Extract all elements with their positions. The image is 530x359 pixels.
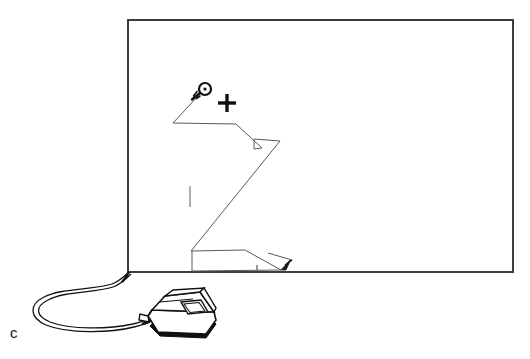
figure-drawing-canvas (0, 0, 530, 359)
puck-front-face (148, 310, 216, 334)
digitizer-puck (139, 288, 216, 338)
cursor-center-dot (203, 87, 206, 90)
figure-root: c (0, 0, 530, 359)
puck-cable (33, 272, 151, 332)
puck-cable-strain-relief (139, 314, 149, 322)
panel-label: c (10, 325, 18, 341)
cable-inner-edge (38, 274, 149, 328)
digitizer-tablet-surface (128, 20, 513, 272)
tablet-border-rect (128, 20, 513, 272)
